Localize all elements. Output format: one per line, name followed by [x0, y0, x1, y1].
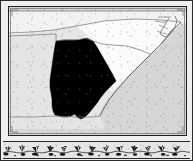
map-plate — [0, 0, 193, 161]
ornamental-vine-band — [3, 141, 190, 159]
florida-area — [9, 116, 105, 129]
map-frame — [8, 6, 187, 136]
southeast-states-map — [9, 7, 186, 135]
vine-ornament-graphic — [3, 142, 190, 158]
